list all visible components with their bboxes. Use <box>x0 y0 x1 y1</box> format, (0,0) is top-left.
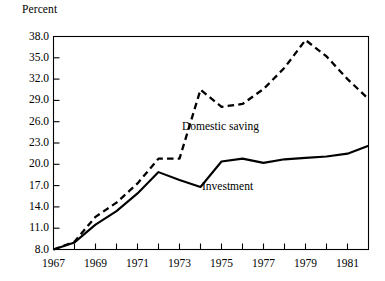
series-line-investment <box>54 146 369 250</box>
x-axis-tick-label: 1971 <box>126 258 149 270</box>
y-axis-tick-label: 23.0 <box>29 137 49 149</box>
y-axis-tick-label: 26.0 <box>29 116 49 128</box>
plot-area <box>0 0 385 281</box>
series-line-domestic-saving <box>54 40 369 249</box>
x-axis-ticks <box>75 244 348 250</box>
data-series-group <box>54 40 369 249</box>
x-axis-tick-label: 1975 <box>210 258 233 270</box>
y-axis-tick-label: 8.0 <box>35 244 49 256</box>
x-axis-tick-label: 1967 <box>42 258 65 270</box>
y-axis-ticks <box>54 58 60 228</box>
y-axis-tick-label: 14.0 <box>29 201 49 213</box>
axes-frame <box>54 37 369 250</box>
y-axis-tick-label: 29.0 <box>29 95 49 107</box>
y-axis-tick-labels: 8.011.014.017.020.023.026.029.032.035.03… <box>0 0 49 281</box>
x-axis-tick-label: 1977 <box>252 258 275 270</box>
series-label-investment: Investment <box>202 180 253 192</box>
y-axis-tick-label: 35.0 <box>29 52 49 64</box>
y-axis-tick-label: 32.0 <box>29 73 49 85</box>
x-axis-tick-label: 1979 <box>294 258 317 270</box>
y-axis-tick-label: 20.0 <box>29 159 49 171</box>
x-axis-tick-label: 1969 <box>84 258 107 270</box>
y-axis-tick-label: 11.0 <box>29 222 49 234</box>
x-axis-tick-label: 1981 <box>336 258 359 270</box>
y-axis-tick-label: 38.0 <box>29 31 49 43</box>
chart-container: Percent 8.011.014.017.020.023.026.029.03… <box>0 0 385 281</box>
x-axis-tick-label: 1973 <box>168 258 191 270</box>
y-axis-tick-label: 17.0 <box>29 180 49 192</box>
series-label-domestic-saving: Domestic saving <box>182 120 259 132</box>
